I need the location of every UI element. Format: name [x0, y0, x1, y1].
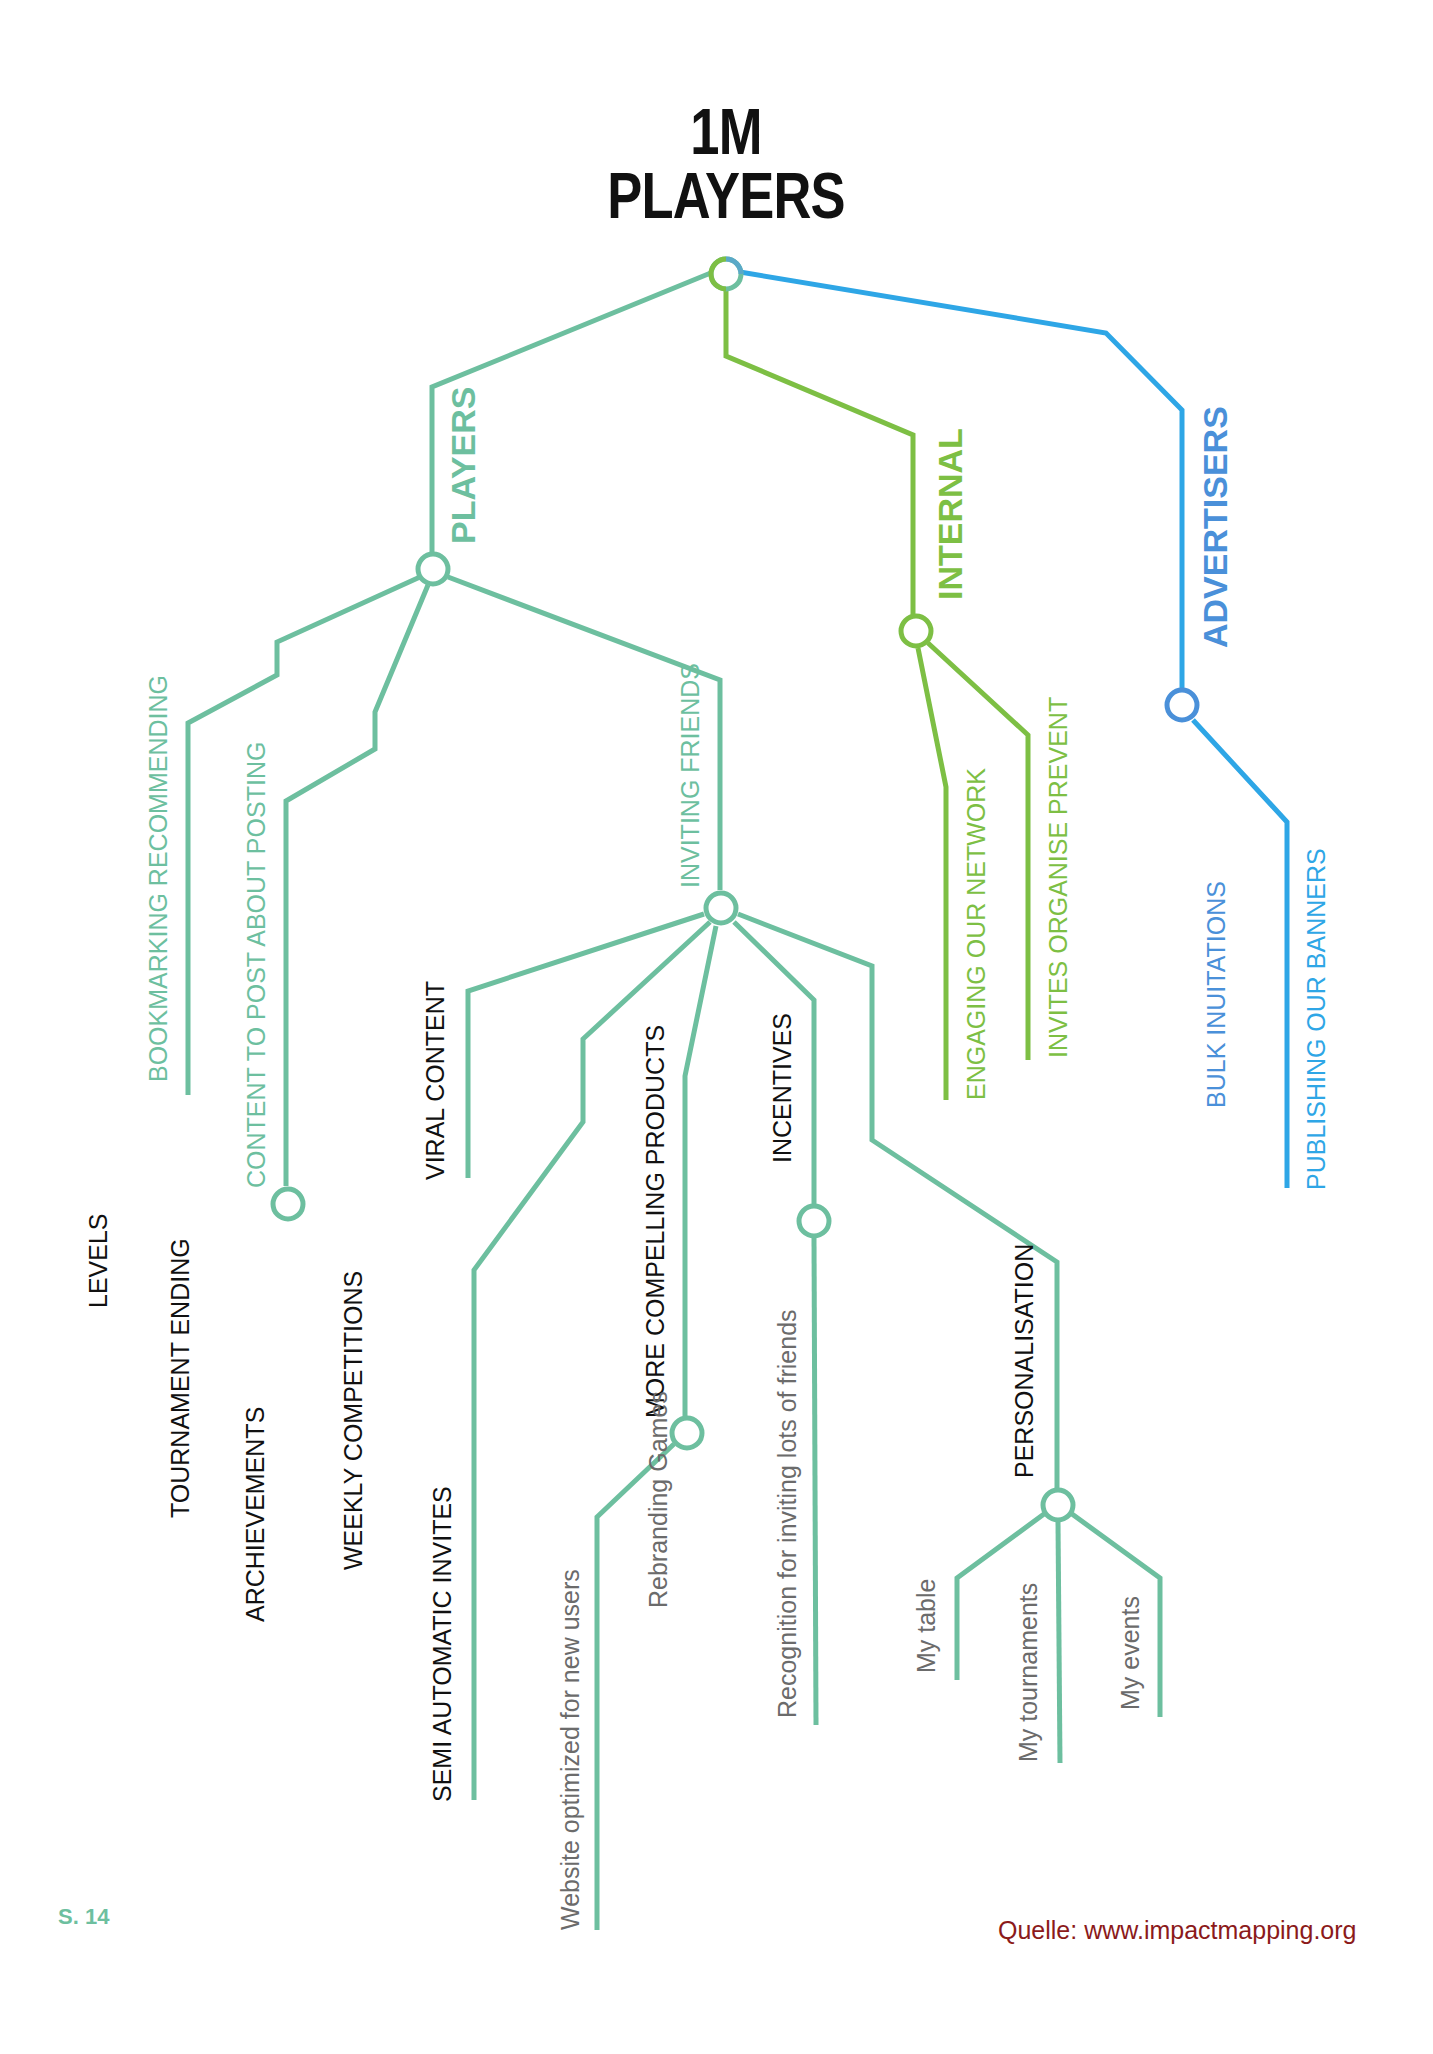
- branch-root-internal: [726, 290, 913, 615]
- impact-engaging-network-label: ENGAGING OUR NETWORK: [964, 768, 989, 1100]
- internal-node: [901, 616, 931, 646]
- detail-my-tournaments-label: My tournaments: [1016, 1583, 1041, 1762]
- deliverable-tournament-ending-label: TOURNAMENT ENDING: [168, 1238, 193, 1518]
- personalisation-node: [1043, 1490, 1073, 1520]
- goal-title-line1: 1M: [131, 100, 1322, 164]
- actor-players-label: PLAYERS: [446, 387, 480, 544]
- impact-inviting-friends-label: INVITING FRIENDS: [678, 663, 703, 888]
- branch-more-compelling: [685, 926, 716, 1416]
- inviting-friends-node: [706, 893, 736, 923]
- deliverable-weekly-competitions-label: WEEKLY COMPETITIONS: [341, 1271, 366, 1570]
- detail-my-events-label: My events: [1118, 1596, 1143, 1710]
- more-compelling-node: [672, 1418, 702, 1448]
- impact-bookmarking-label: BOOKMARKING RECOMMENDING: [146, 675, 171, 1082]
- actor-advertisers-label: ADVERTISERS: [1198, 406, 1232, 648]
- branch-recognition: [814, 1238, 816, 1725]
- branch-semi-automatic: [474, 922, 710, 1800]
- detail-rebranding-games-label: Rebranding Games: [646, 1391, 671, 1608]
- detail-my-table-label: My table: [914, 1579, 939, 1673]
- deliverable-incentives-label: INCENTIVES: [770, 1013, 795, 1163]
- deliverable-more-compelling-label: MORE COMPELLING PRODUCTS: [643, 1025, 668, 1418]
- deliverable-levels-label: LEVELS: [86, 1213, 111, 1308]
- branch-bookmarking: [188, 577, 420, 1095]
- impact-content-posting-label: CONTENT TO POST ABOUT POSTING: [244, 742, 269, 1188]
- incentives-node: [799, 1206, 829, 1236]
- detail-recognition-label: Recognition for inviting lots of friends: [775, 1309, 800, 1718]
- branch-engaging-network: [918, 648, 946, 1100]
- players-node: [418, 554, 448, 584]
- source-credit: Quelle: www.impactmapping.org: [998, 1916, 1357, 1945]
- deliverable-semi-automatic-label: SEMI AUTOMATIC INVITES: [430, 1486, 455, 1802]
- detail-website-optimized-label: Website optimized for new users: [558, 1569, 583, 1930]
- deliverable-archievements-label: ARCHIEVEMENTS: [243, 1407, 268, 1622]
- impact-publishing-banners-label: PUBLISHING OUR BANNERS: [1304, 848, 1329, 1190]
- branch-my-tournaments: [1058, 1522, 1060, 1763]
- page-number: S. 14: [58, 1904, 109, 1930]
- goal-title: 1M PLAYERS: [131, 100, 1322, 228]
- content-posting-node: [273, 1189, 303, 1219]
- actor-internal-label: INTERNAL: [933, 428, 967, 600]
- impact-invites-organise-label: INVITES ORGANISE PREVENT: [1046, 697, 1071, 1058]
- branch-content-posting: [286, 585, 428, 1186]
- deliverable-viral-content-label: VIRAL CONTENT: [423, 981, 448, 1180]
- advertisers-node: [1167, 690, 1197, 720]
- goal-title-line2: PLAYERS: [131, 164, 1322, 228]
- deliverable-personalisation-label: PERSONALISATION: [1012, 1244, 1037, 1478]
- impact-bulk-invitations-label: BULK INUITATIONS: [1204, 881, 1229, 1108]
